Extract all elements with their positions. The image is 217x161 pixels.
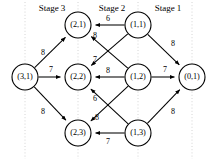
edge-3-1-to-2-3 <box>34 87 66 120</box>
network-diagram-canvas: (3,1)(2,1)(2,2)(2,3)(1,1)(1,2)(1,3)(0,1)… <box>0 0 217 161</box>
edge-weight-3-1-to-2-3: 8 <box>41 107 45 116</box>
edge-3-1-to-2-1 <box>35 37 66 67</box>
edge-weight-layer: 8786878687878 <box>41 14 175 146</box>
edge-weight-1-2-to-2-2: 8 <box>106 66 110 75</box>
stage-label-2: Stage 2 <box>99 3 126 13</box>
stage-label-layer: Stage 3Stage 2Stage 1 <box>39 3 182 13</box>
edge-weight-3-1-to-2-1: 8 <box>41 48 45 57</box>
node-2-1: (2,1) <box>65 12 91 38</box>
node-0-1: (0,1) <box>179 64 205 90</box>
stage-label-1: Stage 3 <box>39 3 66 13</box>
node-label-1-3: (1,3) <box>130 128 146 137</box>
node-1-2: (1,2) <box>125 64 151 90</box>
edge-weight-1-3-to-0-1: 8 <box>171 107 175 116</box>
edge-weight-1-2-to-2-1: 8 <box>93 31 97 40</box>
edge-weight-1-1-to-2-1: 6 <box>106 14 110 23</box>
node-2-2: (2,2) <box>65 64 91 90</box>
stage-divider-lines <box>25 2 192 159</box>
node-label-0-1: (0,1) <box>184 72 200 81</box>
node-label-2-2: (2,2) <box>70 72 86 81</box>
node-2-3: (2,3) <box>65 120 91 146</box>
node-label-1-1: (1,1) <box>130 20 146 29</box>
edge-weight-1-3-to-2-3: 7 <box>106 137 110 146</box>
edge-weight-1-3-to-2-2: 6 <box>93 94 97 103</box>
node-layer: (3,1)(2,1)(2,2)(2,3)(1,1)(1,2)(1,3)(0,1) <box>12 12 205 146</box>
node-label-1-2: (1,2) <box>130 72 146 81</box>
node-1-1: (1,1) <box>125 12 151 38</box>
node-label-3-1: (3,1) <box>17 72 33 81</box>
edge-weight-1-1-to-0-1: 8 <box>171 39 175 48</box>
edge-weight-1-2-to-0-1: 7 <box>163 65 167 74</box>
node-label-2-3: (2,3) <box>70 128 86 137</box>
node-1-3: (1,3) <box>125 120 151 146</box>
stage-label-3: Stage 1 <box>155 3 182 13</box>
node-label-2-1: (2,1) <box>70 20 86 29</box>
edge-weight-1-1-to-2-2: 7 <box>93 55 97 64</box>
edge-layer <box>34 25 180 133</box>
edge-weight-1-2-to-2-3: 8 <box>95 113 99 122</box>
node-3-1: (3,1) <box>12 64 38 90</box>
network-diagram: (3,1)(2,1)(2,2)(2,3)(1,1)(1,2)(1,3)(0,1)… <box>0 0 217 161</box>
edge-weight-3-1-to-2-2: 7 <box>49 65 53 74</box>
